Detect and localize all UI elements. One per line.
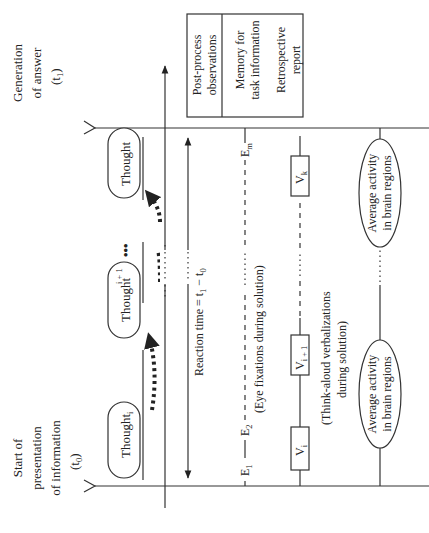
thought-transition-arrow-2a xyxy=(158,250,160,282)
thought-transition-arrow-2b xyxy=(150,196,160,222)
end-label-line2: of answer xyxy=(29,47,44,99)
start-time-label: (t0) xyxy=(67,453,84,470)
svg-text:E2: E2 xyxy=(238,424,254,436)
svg-text:(t0): (t0) xyxy=(67,453,84,470)
svg-text:Thoughti: Thoughti xyxy=(118,411,135,458)
svg-text:Thought: Thought xyxy=(118,142,133,186)
brain-activity-row: Average activity in brain regions Averag… xyxy=(359,128,401,486)
thought-ellipsis: ••• xyxy=(118,243,133,257)
end-time-label: (t1) xyxy=(48,68,65,85)
svg-text:(t1): (t1) xyxy=(48,68,65,85)
retrospective-item-line2: report xyxy=(289,45,303,74)
thought-i: Thoughti xyxy=(108,402,140,478)
fixation-e1: E1 xyxy=(238,464,254,476)
post-process-header-line1: Post-process xyxy=(190,34,204,95)
svg-text:Average activity: Average activity xyxy=(365,154,379,233)
fixation-e2: E2 xyxy=(238,424,254,436)
start-label-line3: of information xyxy=(48,420,63,496)
start-label: Start of presentation of information (t0… xyxy=(10,420,84,496)
t1-boundary-line xyxy=(84,121,429,134)
svg-text:in brain regions: in brain regions xyxy=(380,356,394,432)
end-label: Generation of answer (t1) xyxy=(10,44,65,102)
verbalization-caption-line2: during solution) xyxy=(335,321,349,398)
svg-text:Average activity: Average activity xyxy=(365,355,379,434)
post-process-box: Post-process observations Memory for tas… xyxy=(187,14,303,117)
reaction-time-label: Reaction time = t1 − t0 xyxy=(192,268,208,376)
svg-text:Em: Em xyxy=(238,143,254,157)
retrospective-item-line1: Retrospective xyxy=(274,27,288,93)
thought-i-plus-1: Thoughti + 1 xyxy=(108,262,140,338)
eye-fixation-row: E1 E2 Em (Eye fixations during solution) xyxy=(238,128,266,486)
thought-transition-arrow-1 xyxy=(150,340,155,410)
t0-chevron-icon xyxy=(84,480,95,492)
t1-chevron-icon xyxy=(84,121,95,134)
svg-text:E1: E1 xyxy=(238,464,254,476)
verbalization-caption-line1: (Think-aloud verbalizations xyxy=(319,291,333,425)
verbalization-row: Vi Vi + 1 Vk (Think-aloud verbalizations… xyxy=(291,136,349,486)
svg-text:in brain regions: in brain regions xyxy=(380,155,394,231)
start-label-line1: Start of xyxy=(10,438,25,477)
post-process-header-line2: observations xyxy=(205,34,219,95)
t0-boundary-line xyxy=(84,480,429,492)
thought-k: Thought xyxy=(108,128,140,198)
memory-item-line1: Memory for xyxy=(233,31,247,89)
svg-text:Reaction time = t1 − t0: Reaction time = t1 − t0 xyxy=(192,268,208,376)
fixation-em: Em xyxy=(238,143,254,157)
axis-gap-dots xyxy=(160,250,193,284)
start-label-line2: presentation xyxy=(29,426,44,490)
eye-fixation-caption: (Eye fixations during solution) xyxy=(252,265,266,413)
svg-text:•••: ••• xyxy=(118,243,133,257)
verbal-report-timeline-diagram: Start of presentation of information (t0… xyxy=(0,0,429,533)
memory-item-line2: task information xyxy=(248,21,262,100)
end-label-line1: Generation xyxy=(10,44,25,102)
